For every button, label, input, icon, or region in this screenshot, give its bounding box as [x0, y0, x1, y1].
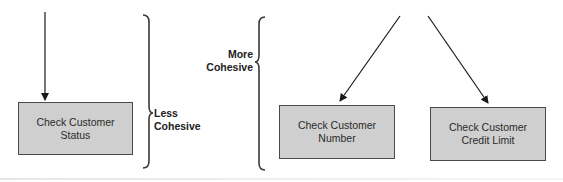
module-check-customer-number: Check Customer Number: [279, 105, 395, 159]
module-label-line2: Status: [36, 129, 114, 142]
module-label-line1: Check Customer: [298, 119, 376, 132]
module-label-line1: Check Customer: [449, 121, 527, 134]
module-label-line2: Number: [298, 132, 376, 145]
brace-less-cohesive-icon: [143, 15, 153, 168]
module-label-line1: Check Customer: [36, 116, 114, 129]
module-check-customer-credit-limit: Check Customer Credit Limit: [430, 107, 546, 161]
arrow-to-number-module: [340, 16, 400, 101]
cohesion-diagram: Check Customer Status Less Cohesive More…: [0, 0, 563, 182]
less-cohesive-label: Less Cohesive: [154, 107, 201, 133]
brace-more-cohesive-icon: [255, 17, 265, 170]
module-label-line2: Credit Limit: [449, 134, 527, 147]
arrow-to-credit-limit-module: [428, 16, 488, 103]
more-cohesive-label: More Cohesive: [200, 48, 253, 74]
bottom-divider: [0, 178, 563, 180]
module-check-customer-status: Check Customer Status: [18, 102, 133, 155]
